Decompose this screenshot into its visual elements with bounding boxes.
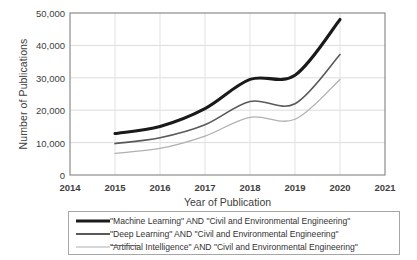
scan-artifact-line: [111, 245, 139, 246]
plot-frame: [70, 13, 385, 175]
y-axis-tick-labels: 50,000 40,000 30,000 20,000 10,000 0: [18, 0, 65, 260]
legend-item-deep-learning: "Deep Learning" AND "Civil and Environme…: [69, 227, 399, 240]
x-tick-label: 2019: [284, 182, 305, 193]
x-tick-label: 2014: [59, 182, 80, 193]
x-tick-label: 2015: [104, 182, 125, 193]
y-tick-label: 20,000: [21, 105, 65, 116]
grid-lines: [70, 13, 385, 175]
legend-swatch-icon: [76, 228, 110, 240]
series-line-deep-learning: [115, 54, 340, 143]
legend-swatch-icon: [76, 215, 110, 227]
y-tick-label: 10,000: [21, 137, 65, 148]
y-tick-label: 30,000: [21, 72, 65, 83]
legend-swatch-icon: [76, 241, 110, 253]
data-series-group: [115, 19, 340, 153]
y-tick-label: 0: [21, 170, 65, 181]
legend-item-artificial-intelligence: "Artificial Intelligence" AND "Civil and…: [69, 240, 399, 253]
x-tick-label: 2018: [239, 182, 260, 193]
y-tick-label: 50,000: [21, 8, 65, 19]
x-tick-label: 2016: [149, 182, 170, 193]
x-tick-label: 2021: [374, 182, 395, 193]
legend-label: "Artificial Intelligence" AND "Civil and…: [110, 242, 358, 252]
publications-line-chart: Number of Publications 50,000 40,000 30,…: [0, 0, 417, 260]
legend-item-machine-learning: "Machine Learning" AND "Civil and Enviro…: [69, 214, 399, 227]
y-tick-label: 40,000: [21, 40, 65, 51]
legend-label: "Machine Learning" AND "Civil and Enviro…: [110, 216, 350, 226]
chart-legend: "Machine Learning" AND "Civil and Enviro…: [68, 211, 400, 255]
x-axis-title: Year of Publication: [70, 196, 385, 208]
legend-label: "Deep Learning" AND "Civil and Environme…: [110, 229, 338, 239]
x-tick-label: 2017: [194, 182, 215, 193]
series-line-machine-learning: [115, 19, 340, 133]
series-line-artificial-intelligence: [115, 79, 340, 153]
x-tick-label: 2020: [329, 182, 350, 193]
